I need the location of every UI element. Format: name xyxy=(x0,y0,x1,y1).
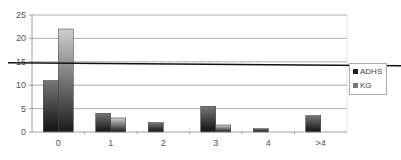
y-tick-label: 5 xyxy=(21,104,26,114)
legend-item-kg: KG xyxy=(350,78,386,92)
gridlines xyxy=(32,15,347,109)
legend-label: ADHS xyxy=(360,67,382,76)
bar-kg xyxy=(111,118,126,132)
bars xyxy=(43,29,321,132)
bar-kg xyxy=(58,29,73,132)
legend-item-adhs: ADHS xyxy=(350,64,386,78)
bar-kg xyxy=(216,125,231,132)
legend-label: KG xyxy=(360,81,372,90)
x-tick-label: >4 xyxy=(316,138,326,148)
bar-adhs xyxy=(96,113,111,132)
y-tick-label: 10 xyxy=(16,80,26,90)
legend: ADHS KG xyxy=(349,63,387,95)
x-tick-label: 3 xyxy=(213,138,218,148)
legend-swatch-adhs xyxy=(353,69,358,74)
legend-swatch-kg xyxy=(353,83,358,88)
bar-chart: 0510152025 01234>4 xyxy=(0,0,401,160)
bar-adhs xyxy=(43,81,58,132)
x-tick-label: 0 xyxy=(56,138,61,148)
y-tick-label: 20 xyxy=(16,33,26,43)
x-tick-label: 2 xyxy=(161,138,166,148)
y-tick-label: 15 xyxy=(16,57,26,67)
y-tick-label: 0 xyxy=(21,127,26,137)
bar-adhs xyxy=(306,116,321,132)
bar-adhs xyxy=(253,129,268,132)
y-tick-label: 25 xyxy=(16,10,26,20)
bar-adhs xyxy=(201,106,216,132)
x-tick-label: 4 xyxy=(266,138,271,148)
x-tick-label: 1 xyxy=(108,138,113,148)
x-axis: 01234>4 xyxy=(32,132,347,148)
bar-adhs xyxy=(148,123,163,132)
